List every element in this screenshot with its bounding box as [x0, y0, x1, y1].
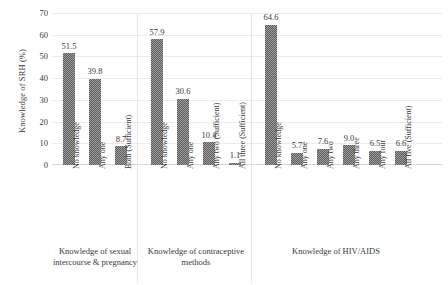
category-label: Any two [327, 141, 335, 169]
category-label: Any one [301, 142, 309, 169]
group-divider [137, 13, 138, 283]
y-axis-tick-label: 0 [26, 161, 48, 170]
y-axis-tick-label: 40 [26, 74, 48, 83]
y-axis-tick-label: 10 [26, 139, 48, 148]
group-title: Knowledge of HIV/AIDS [266, 246, 406, 257]
category-label: Both (Sufficient) [125, 115, 133, 169]
category-label: No knowledge [161, 122, 169, 169]
y-axis-tick-labels: 010203040506070 [26, 13, 48, 165]
category-label: All three (Sufficient) [239, 102, 247, 169]
group-title-line: Knowledge of contraceptive [126, 246, 266, 257]
category-label: Any four [379, 140, 387, 169]
bar-chart: Knowledge of SRH (%) 010203040506070 51.… [0, 0, 448, 285]
category-label: Any one [187, 142, 195, 169]
category-label: Any three [353, 137, 361, 169]
y-axis-tick-label: 30 [26, 96, 48, 105]
bar-value-label: 8.7 [101, 135, 141, 144]
group-divider [251, 13, 252, 283]
y-axis-tick-label: 50 [26, 52, 48, 61]
bar-value-label: 1.1 [215, 151, 255, 160]
category-label: Any one [99, 142, 107, 169]
category-label: No knowledge [275, 122, 283, 169]
y-axis-tick-label: 60 [26, 30, 48, 39]
category-label: Any two (Sufficient) [213, 102, 221, 169]
group-title-line: Knowledge of HIV/AIDS [266, 246, 406, 257]
category-label: No knowledge [73, 122, 81, 169]
y-axis-tick-label: 20 [26, 117, 48, 126]
category-label: All five (Sufficient) [405, 106, 413, 169]
group-title-line: methods [126, 257, 266, 268]
bar-value-label: 6.6 [381, 139, 421, 148]
group-title: Knowledge of contraceptivemethods [126, 246, 266, 267]
y-axis-tick-label: 70 [26, 9, 48, 18]
